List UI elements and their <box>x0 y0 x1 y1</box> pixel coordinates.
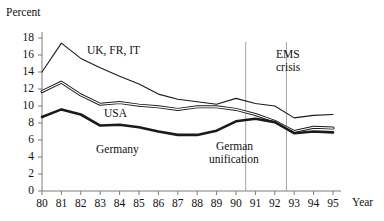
x-tick-label: 80 <box>32 197 52 210</box>
annotation-ems-crisis-line1: EMS <box>276 48 300 61</box>
x-tick-label: 84 <box>110 197 130 210</box>
series-label-usa: USA <box>104 107 127 120</box>
y-tick-label: 16 <box>16 48 34 61</box>
x-tick-label: 93 <box>284 197 304 210</box>
annotation-german-unification-line1: German <box>216 140 253 153</box>
y-tick-label: 4 <box>16 150 34 163</box>
y-tick-label: 8 <box>16 116 34 129</box>
x-tick-label: 85 <box>129 197 149 210</box>
x-tick-label: 82 <box>71 197 91 210</box>
x-tick-label: 94 <box>304 197 324 210</box>
x-tick-label: 83 <box>90 197 110 210</box>
y-tick-label: 18 <box>16 31 34 44</box>
x-tick-label: 89 <box>207 197 227 210</box>
x-tick-label: 95 <box>323 197 343 210</box>
x-tick-label: 88 <box>187 197 207 210</box>
y-tick-label: 12 <box>16 82 34 95</box>
y-tick-label: 0 <box>16 184 34 197</box>
y-axis-title: Percent <box>6 6 40 19</box>
x-tick-label: 90 <box>226 197 246 210</box>
unemployment-rate-line-chart: Percent Year UK, FR, IT USA Germany EMS … <box>0 0 384 221</box>
x-tick-label: 81 <box>51 197 71 210</box>
y-tick-label: 10 <box>16 99 34 112</box>
x-tick-label: 86 <box>148 197 168 210</box>
x-tick-label: 87 <box>168 197 188 210</box>
y-tick-label: 2 <box>16 167 34 180</box>
x-axis-title: Year <box>352 196 373 209</box>
x-tick-label: 92 <box>265 197 285 210</box>
y-tick-label: 6 <box>16 133 34 146</box>
x-tick-label: 91 <box>245 197 265 210</box>
series-label-uk-fr-it: UK, FR, IT <box>87 44 140 57</box>
annotation-german-unification-line2: unification <box>209 153 259 166</box>
series-label-germany: Germany <box>96 143 139 156</box>
annotation-ems-crisis-line2: crisis <box>276 61 300 74</box>
y-tick-label: 14 <box>16 65 34 78</box>
chart-plot-area <box>0 0 384 221</box>
